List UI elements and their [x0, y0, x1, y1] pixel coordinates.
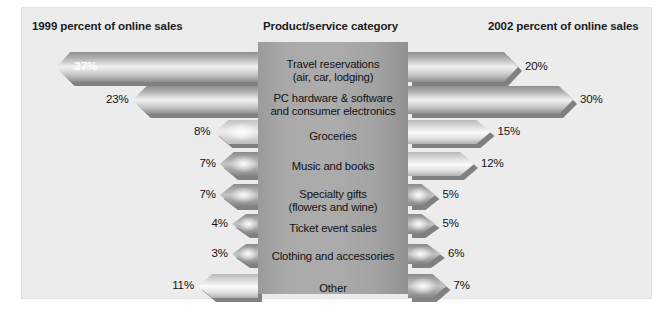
value-label-right-2002: 6% — [448, 247, 464, 259]
value-label-right-2002: 30% — [580, 93, 603, 105]
category-label: Clothing and accessories — [258, 250, 408, 263]
category-label-line1: Specialty gifts — [258, 188, 408, 201]
bar-left-1999 — [220, 184, 258, 206]
value-label-right-2002: 7% — [454, 279, 470, 291]
value-label-right-2002: 5% — [443, 217, 459, 229]
category-label: Groceries — [258, 130, 408, 143]
bar-left-1999 — [232, 244, 258, 264]
bar-left-1999 — [214, 120, 258, 144]
bar-left-1999 — [232, 214, 258, 234]
category-label: Travel reservations(air, car, lodging) — [258, 58, 408, 84]
column-headers: 1999 percent of online sales Product/ser… — [22, 8, 651, 42]
category-label: Music and books — [258, 160, 408, 173]
category-label: PC hardware & softwareand consumer elect… — [258, 92, 408, 118]
value-label-left-1999: 23% — [99, 93, 129, 105]
chart-figure: 1999 percent of online sales Product/ser… — [22, 8, 651, 298]
value-label-left-1999: 8% — [180, 125, 210, 137]
category-label: Ticket event sales — [258, 222, 408, 235]
bar-left-1999 — [198, 274, 258, 298]
category-label-line1: Music and books — [258, 160, 408, 173]
category-label-line1: Other — [258, 282, 408, 295]
value-label-left-1999: 7% — [186, 157, 216, 169]
category-label-line2: (flowers and wine) — [258, 201, 408, 214]
bar-right-2002 — [408, 152, 474, 176]
value-label-left-1999: 37% — [74, 60, 97, 72]
category-label-line2: and consumer electronics — [258, 105, 408, 118]
chart-body: 37%20%Travel reservations(air, car, lodg… — [22, 42, 651, 298]
bar-right-2002 — [408, 86, 573, 114]
category-label-line2: (air, car, lodging) — [258, 71, 408, 84]
value-label-right-2002: 5% — [443, 188, 459, 200]
category-label: Other — [258, 282, 408, 295]
bar-left-1999 — [220, 152, 258, 176]
value-label-right-2002: 20% — [525, 60, 548, 72]
value-label-left-1999: 3% — [198, 247, 228, 259]
category-label-line1: Travel reservations — [258, 58, 408, 71]
value-label-right-2002: 15% — [498, 125, 521, 137]
category-label-line1: Clothing and accessories — [258, 250, 408, 263]
bar-left-1999 — [133, 86, 258, 114]
bar-right-2002 — [408, 120, 491, 144]
value-label-left-1999: 7% — [186, 188, 216, 200]
bar-right-2002 — [408, 52, 518, 82]
category-label-line1: PC hardware & software — [258, 92, 408, 105]
header-category: Product/service category — [263, 20, 398, 32]
category-label: Specialty gifts(flowers and wine) — [258, 188, 408, 214]
value-label-right-2002: 12% — [481, 157, 504, 169]
value-label-left-1999: 11% — [164, 279, 194, 291]
category-label-line1: Ticket event sales — [258, 222, 408, 235]
header-left-year: 1999 percent of online sales — [32, 20, 183, 32]
value-label-left-1999: 4% — [198, 217, 228, 229]
category-label-line1: Groceries — [258, 130, 408, 143]
header-right-year: 2002 percent of online sales — [488, 20, 639, 32]
